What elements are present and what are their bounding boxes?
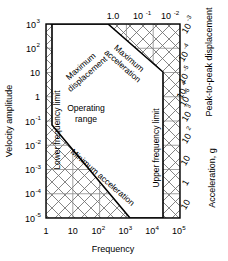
left-tick-1-mantissa: 10 (26, 44, 36, 54)
left-tick-5-exponent: -2 (36, 138, 42, 145)
top-tick-1-exponent: -1 (146, 9, 152, 16)
vibration-nomograph-chart: 1 10 10 2 10 3 10 4 10 5 Frequency 10 3 … (0, 0, 228, 261)
operating-range-label-line2: range (75, 114, 97, 124)
bottom-tick-0-mantissa: 1 (43, 226, 48, 236)
rd-tick-2-exponent: -5 (181, 63, 190, 72)
rd-tick-0-exponent: -3 (184, 13, 193, 22)
left-tick-8-mantissa: 10 (25, 214, 35, 224)
left-tick-0-mantissa: 10 (26, 20, 36, 30)
ra-tick-1-mantissa: 10 (180, 110, 194, 124)
lower-frequency-limit-label: Lower frequency limit (52, 90, 62, 170)
left-tick-7-mantissa: 10 (25, 189, 35, 199)
left-tick-2-mantissa: 10 (30, 68, 40, 78)
top-tick-1-mantissa: 10 (133, 11, 143, 21)
rd-tick-0-mantissa: 10 (180, 22, 194, 36)
left-tick-1-exponent: 2 (37, 41, 41, 48)
bottom-tick-1-mantissa: 10 (68, 226, 78, 236)
chart-canvas: 1 10 10 2 10 3 10 4 10 5 Frequency 10 3 … (0, 0, 228, 261)
bottom-tick-5-mantissa: 10 (172, 226, 182, 236)
left-axis-ticks: 10 3 10 2 10 1 10 -1 10 -2 10 -3 10 -4 1… (25, 17, 42, 223)
ra-tick-2-exponent: 2 (184, 124, 192, 131)
left-tick-6-exponent: -3 (36, 163, 42, 170)
right-displacement-axis-title: Peak-to-peak displacement (204, 7, 214, 117)
bottom-tick-4-mantissa: 10 (145, 226, 155, 236)
top-tick-0-mantissa: 1.0 (107, 11, 120, 21)
rd-tick-1-exponent: -4 (181, 41, 190, 50)
top-tick-2-exponent: -2 (174, 9, 180, 16)
bottom-tick-3-exponent: 3 (129, 224, 133, 231)
bottom-tick-2-mantissa: 10 (92, 226, 102, 236)
x-axis-title: Frequency (92, 244, 135, 254)
bottom-tick-4-exponent: 4 (155, 224, 159, 231)
bottom-tick-5-exponent: 5 (182, 224, 186, 231)
upper-frequency-limit-label: Upper frequency limit (151, 108, 161, 188)
ra-tick-2-mantissa: 10 (180, 132, 194, 146)
top-tick-2-mantissa: 10 (161, 11, 171, 21)
bottom-axis-ticks: 1 10 10 2 10 3 10 4 10 5 (43, 224, 186, 236)
top-axis-ticks: 1.0 10 -1 10 -2 (107, 9, 180, 21)
left-tick-3-mantissa: 1 (35, 92, 40, 102)
y-axis-title: Velocity amplitude (4, 85, 14, 158)
left-tick-8-exponent: -5 (36, 211, 42, 218)
bottom-tick-2-exponent: 2 (102, 224, 106, 231)
ra-tick-4-mantissa: 1 (180, 178, 191, 187)
left-tick-7-exponent: -4 (36, 187, 42, 194)
left-tick-4-mantissa: 10 (25, 117, 35, 127)
right-acceleration-axis-title: Acceleration, g (207, 148, 217, 208)
left-tick-5-mantissa: 10 (25, 141, 35, 151)
left-tick-4-exponent: -1 (36, 114, 42, 121)
bottom-tick-3-mantissa: 10 (118, 226, 128, 236)
left-tick-0-exponent: 3 (37, 17, 41, 24)
left-tick-6-mantissa: 10 (25, 165, 35, 175)
operating-range-label-line1: Operating (67, 103, 105, 113)
